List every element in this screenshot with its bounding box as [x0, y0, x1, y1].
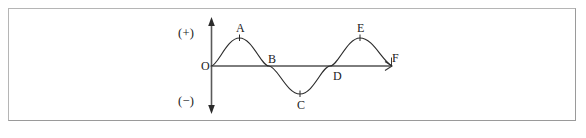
- point-label-f: F: [392, 52, 399, 64]
- point-label-d: D: [333, 70, 342, 82]
- point-label-c: C: [297, 99, 305, 111]
- point-label-a: A: [236, 22, 245, 34]
- positive-axis-label: (+): [178, 27, 194, 39]
- wave-diagram-figure: (+) (−) O A B C D E F: [0, 0, 586, 138]
- vertical-axis-up-arrowhead: [208, 17, 215, 26]
- point-label-e: E: [357, 22, 365, 34]
- negative-axis-label: (−): [178, 95, 194, 107]
- vertical-axis-down-arrowhead: [208, 105, 215, 114]
- point-label-b: B: [268, 53, 276, 65]
- wave-graphic: [0, 0, 586, 138]
- horizontal-axis: [211, 58, 392, 71]
- point-label-o: O: [201, 60, 210, 72]
